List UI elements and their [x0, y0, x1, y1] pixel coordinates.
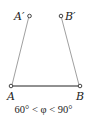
- label-b-prime: B′: [64, 10, 76, 23]
- point-b: [78, 84, 82, 88]
- point-b-prime: [59, 14, 63, 18]
- arm-right: [61, 16, 79, 85]
- arm-left: [12, 16, 29, 85]
- label-b: B: [75, 90, 84, 103]
- label-a: A: [6, 90, 15, 103]
- point-a-prime: [28, 14, 32, 18]
- point-a: [9, 84, 13, 88]
- linkage-diagram: A′ B′ A B 60° < φ < 90°: [0, 0, 87, 120]
- label-a-prime: A′: [13, 10, 25, 23]
- angle-range-caption: 60° < φ < 90°: [15, 104, 73, 115]
